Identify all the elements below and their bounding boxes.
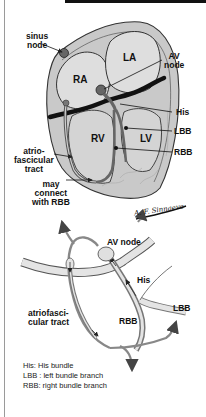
sinus-node (60, 49, 69, 58)
label-may-line3: with RBB (32, 198, 70, 207)
label-his: His (176, 108, 189, 117)
legend-item-rbb: RBB: right bundle branch (23, 381, 107, 391)
label-rbb-schematic: RBB (119, 317, 137, 326)
label-lv: LV (140, 134, 152, 143)
label-his-schematic: His (137, 276, 150, 285)
label-av-node-line2: node (164, 61, 184, 70)
legend-item-lbb: LBB : left bundle branch (23, 371, 107, 381)
label-af-line3: tract (14, 165, 54, 174)
label-la: LA (123, 53, 136, 62)
label-lbb: LBB (174, 127, 191, 136)
label-rbb: RBB (174, 148, 192, 157)
av-node-schematic (98, 247, 114, 261)
label-may-connect: may connect with RBB (32, 180, 70, 207)
label-av-node-schematic: AV node (107, 238, 141, 247)
label-av-node: AV node (164, 52, 184, 70)
label-rv: RV (91, 134, 105, 143)
legend: His: His bundle LBB : left bundle branch… (23, 361, 107, 391)
label-lbb-schematic: LBB (173, 304, 190, 313)
label-sinus-node: sinus node (26, 32, 48, 50)
label-sinus-node-line2: node (26, 41, 48, 50)
label-ra: RA (73, 75, 87, 84)
label-af-tract-schematic: atriofasci- cular tract (28, 309, 69, 327)
label-af-schem-line2: cular tract (28, 318, 69, 327)
label-atriofascicular-tract: atrio- fascicular tract (14, 147, 54, 174)
legend-item-his: His: His bundle (23, 361, 107, 371)
